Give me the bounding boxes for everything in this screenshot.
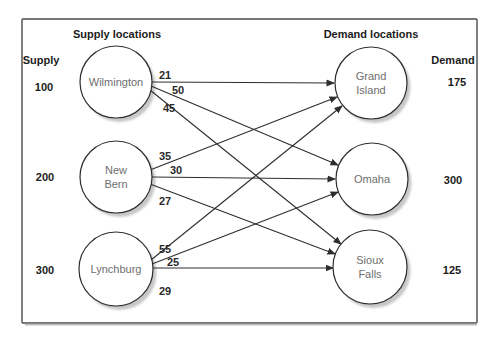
demand-node-sioux-falls <box>333 230 407 304</box>
cost-new-bern-omaha: 30 <box>170 164 182 176</box>
supply-node-label-wilmington: Wilmington <box>89 76 143 88</box>
cost-lynchburg-sioux-falls: 29 <box>159 285 171 297</box>
cost-wilmington-omaha: 50 <box>172 84 184 96</box>
demand-node-grand-island <box>335 47 407 119</box>
cost-lynchburg-omaha: 25 <box>167 256 179 268</box>
cost-new-bern-sioux-falls: 27 <box>159 195 171 207</box>
demand-node-label-island: Island <box>356 84 385 96</box>
supply-node-new-bern <box>80 141 152 213</box>
diagram-canvas: Supply locations Demand locations Supply… <box>0 0 495 342</box>
supply-value-wilmington: 100 <box>35 81 53 93</box>
supply-value-lynchburg: 300 <box>36 264 54 276</box>
demand-value-grand-island: 175 <box>448 76 466 88</box>
cost-new-bern-grand-island: 35 <box>159 150 171 162</box>
demand-axis-label: Demand <box>431 54 474 66</box>
supply-node-label-new: New <box>105 164 127 176</box>
demand-node-label-sioux: Sioux <box>356 254 384 266</box>
demand-node-label-falls: Falls <box>358 268 382 280</box>
cost-wilmington-sioux-falls: 45 <box>163 102 175 114</box>
supply-node-label-lynchburg: Lynchburg <box>91 263 142 275</box>
demand-node-label-grand: Grand <box>356 70 387 82</box>
supply-axis-label: Supply <box>23 54 61 66</box>
cost-wilmington-grand-island: 21 <box>159 69 171 81</box>
demand-node-label-omaha: Omaha <box>354 173 391 185</box>
demand-value-omaha: 300 <box>444 174 462 186</box>
supply-node-label-bern: Bern <box>104 178 127 190</box>
demand-locations-header: Demand locations <box>324 28 419 40</box>
supply-value-new-bern: 200 <box>36 171 54 183</box>
supply-locations-header: Supply locations <box>73 28 161 40</box>
network-diagram: Supply locations Demand locations Supply… <box>0 0 495 342</box>
cost-lynchburg-grand-island: 55 <box>159 243 171 255</box>
demand-value-sioux-falls: 125 <box>443 264 461 276</box>
